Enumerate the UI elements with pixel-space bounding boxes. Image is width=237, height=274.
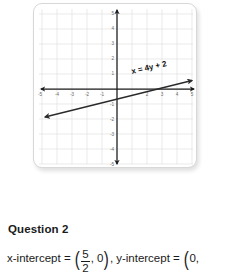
question-block: Question 2 x-intercept = ( 5 2 , 0 ) , y… [0, 218, 210, 262]
comma-x: , [91, 252, 94, 264]
x-tick-label-neg2: -2 [85, 92, 90, 97]
y-tick-label-neg4: -4 [110, 147, 115, 152]
y-tick-label-neg5: -5 [110, 162, 115, 167]
y-tick-label-5: 5 [111, 11, 114, 16]
y-tick-label-3: 3 [111, 41, 114, 46]
x-tick-label-4: 4 [176, 92, 179, 97]
x-tick-label-neg5: -5 [38, 92, 43, 97]
y-intercept-label: y-intercept = [116, 252, 180, 264]
comma-between: , [110, 252, 113, 264]
coordinate-graph: -5 -4 -3 -2 -1 2 3 4 5 5 4 3 2 1 -1 -2 -… [34, 4, 198, 169]
y-tick-label-1: 1 [111, 71, 114, 76]
y-tick-label-2: 2 [111, 56, 114, 61]
fraction-denominator: 2 [81, 263, 89, 274]
question-title: Question 2 [8, 223, 68, 235]
comma-y: , [196, 252, 199, 264]
x-intercept-y-coord: 0 [97, 252, 103, 264]
y-tick-label-4: 4 [111, 26, 114, 31]
x-tick-label-5: 5 [191, 92, 194, 97]
x-tick-label-2: 2 [146, 92, 149, 97]
y-tick-label-neg2: -2 [110, 117, 115, 122]
x-tick-label-neg4: -4 [55, 92, 60, 97]
x-tick-label-neg3: -3 [70, 92, 75, 97]
x-intercept-fraction: 5 2 [81, 249, 89, 274]
y-tick-label-neg3: -3 [110, 132, 115, 137]
fraction-numerator: 5 [81, 249, 89, 261]
x-tick-label-3: 3 [161, 92, 164, 97]
answer-line: x-intercept = ( 5 2 , 0 ) , y-intercept … [7, 245, 237, 270]
y-tick-label-neg1: -1 [110, 102, 115, 107]
x-intercept-label: x-intercept = [7, 252, 71, 264]
x-tick-label-neg1: -1 [100, 92, 105, 97]
graph-card: -5 -4 -3 -2 -1 2 3 4 5 5 4 3 2 1 -1 -2 -… [33, 3, 197, 168]
